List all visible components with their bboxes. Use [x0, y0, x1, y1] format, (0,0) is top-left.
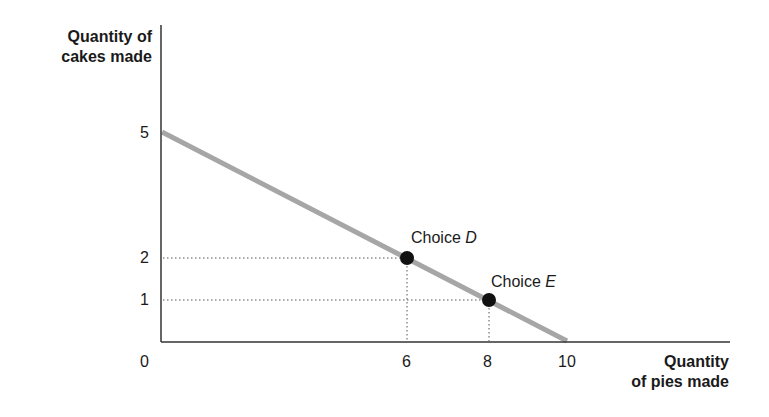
y-axis-title-line-2: cakes made	[61, 47, 152, 67]
x-axis-title-line-1: Quantity	[631, 352, 729, 372]
choice-d-label-text: Choice	[411, 229, 461, 246]
x-tick-8: 8	[483, 353, 492, 371]
x-tick-6: 6	[402, 353, 411, 371]
ppf-line	[162, 132, 567, 341]
guide-lines	[163, 258, 489, 341]
choice-d-point	[400, 251, 414, 265]
choice-e-label: Choice E	[491, 273, 556, 291]
y-axis-title: Quantity of cakes made	[61, 27, 152, 67]
x-tick-10: 10	[558, 353, 576, 371]
y-tick-2: 2	[140, 249, 149, 267]
y-axis-title-line-1: Quantity of	[61, 27, 152, 47]
y-tick-5: 5	[140, 124, 149, 142]
x-axis-title-line-2: of pies made	[631, 372, 729, 392]
choice-e-label-text: Choice	[491, 273, 541, 290]
choice-e-label-letter: E	[545, 273, 556, 290]
y-tick-1: 1	[140, 291, 149, 309]
x-axis-title: Quantity of pies made	[631, 352, 729, 392]
choice-d-label: Choice D	[411, 229, 477, 247]
x-tick-0: 0	[140, 353, 149, 371]
choice-e-point	[482, 293, 496, 307]
choice-d-label-letter: D	[465, 229, 477, 246]
